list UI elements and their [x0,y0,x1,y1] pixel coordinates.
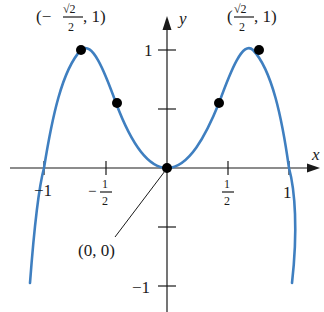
label-part: , 1) [254,7,277,26]
y-tick-label-1: 1 [144,41,153,60]
function-curve [30,48,295,283]
label-den: 2 [239,20,245,34]
x-tick-label-half-den: 2 [224,194,230,208]
y-tick-label-neg1: −1 [132,278,150,297]
right-inflection-point [214,98,224,108]
label-part: , 1) [83,7,106,26]
right-maximum-label: ( √2 2 , 1) [227,2,277,34]
left-maximum-point [76,45,86,55]
y-axis-label: y [177,9,187,28]
label-part: ( [227,7,233,26]
x-tick-label-neg-half-den: 2 [102,194,108,208]
x-axis-label: x [311,145,320,164]
label-den: 2 [68,20,74,34]
x-axis-arrow-icon [307,164,320,173]
origin-label: (0, 0) [78,241,115,260]
x-tick-label-half-num: 1 [224,177,230,191]
origin-point [162,163,172,173]
x-tick-label-neg1: −1 [34,181,52,200]
origin-leader-line [115,171,165,237]
y-axis-arrow-icon [163,16,172,30]
x-tick-label-neg-half-minus: − [88,183,96,199]
right-maximum-point [254,45,264,55]
function-graph: y x −1 − 1 2 1 2 1 1 −1 (− √2 2 , 1) ( √… [0,0,324,312]
left-inflection-point [112,98,122,108]
x-tick-label-1: 1 [283,183,292,202]
label-sqrt2: √2 [234,2,247,16]
left-maximum-label: (− √2 2 , 1) [36,2,106,34]
label-sqrt2: √2 [63,2,76,16]
x-tick-label-neg-half-num: 1 [102,177,108,191]
label-part: (− [36,7,51,26]
